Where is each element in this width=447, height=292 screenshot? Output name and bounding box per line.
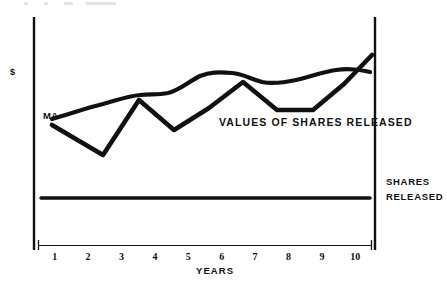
baseline-legend-line1: SHARES <box>386 177 443 187</box>
series-annotation-label: VALUES OF SHARES RELEASED <box>219 117 413 128</box>
line-chart-canvas <box>0 0 447 292</box>
x-tick-label-10: 10 <box>345 251 365 262</box>
x-tick-label-6: 6 <box>212 251 232 262</box>
x-tick-label-8: 8 <box>279 251 299 262</box>
x-tick-label-1: 1 <box>45 251 65 262</box>
baseline-legend: SHARES RELEASED <box>386 177 443 207</box>
chart-page: $ MA VALUES OF SHARES RELEASED YEARS SHA… <box>0 0 447 292</box>
x-axis-title: YEARS <box>196 266 234 276</box>
x-tick-label-4: 4 <box>145 251 165 262</box>
x-tick-label-2: 2 <box>78 251 98 262</box>
x-tick-label-7: 7 <box>245 251 265 262</box>
origin-marker-label: MA <box>43 111 59 121</box>
x-tick-label-5: 5 <box>178 251 198 262</box>
baseline-legend-line2: RELEASED <box>386 192 443 202</box>
x-tick-label-3: 3 <box>112 251 132 262</box>
values-of-shares-trend-line <box>52 69 370 119</box>
y-axis-label: $ <box>10 68 16 77</box>
x-tick-label-9: 9 <box>312 251 332 262</box>
